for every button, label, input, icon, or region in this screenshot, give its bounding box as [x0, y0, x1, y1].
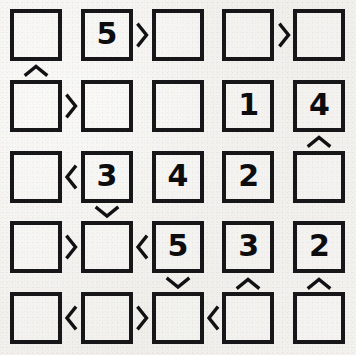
grid-cell-r5c4[interactable] [222, 292, 274, 344]
futoshiki-puzzle-grid: 514342532 [0, 0, 356, 355]
grid-cell-r1c5[interactable] [293, 9, 345, 61]
cell-value: 2 [309, 231, 329, 261]
h-constraint-greater-than-icon-r1c2 [133, 20, 152, 50]
cell-value: 3 [238, 231, 258, 261]
cell-value: 3 [97, 161, 117, 191]
v-constraint-up-chevron-icon-r2c5 [304, 132, 334, 150]
h-constraint-less-than-icon-r5c3 [204, 303, 223, 333]
h-constraint-less-than-icon-r3c1 [62, 162, 81, 192]
cell-value: 5 [97, 19, 117, 49]
grid-cell-r2c3[interactable] [152, 80, 204, 132]
grid-cell-r2c5[interactable]: 4 [293, 80, 345, 132]
grid-cell-r5c3[interactable] [152, 292, 204, 344]
grid-cell-r3c5[interactable] [293, 151, 345, 203]
grid-cell-r5c2[interactable] [81, 292, 133, 344]
cell-value: 4 [167, 161, 187, 191]
v-constraint-up-chevron-icon-r4c4 [233, 274, 263, 292]
v-constraint-down-chevron-icon-r4c3 [163, 274, 193, 292]
grid-cell-r4c5[interactable]: 2 [293, 221, 345, 273]
h-constraint-less-than-icon-r4c2 [133, 232, 152, 262]
h-constraint-greater-than-icon-r1c4 [274, 20, 293, 50]
grid-cell-r1c3[interactable] [152, 9, 204, 61]
h-constraint-less-than-icon-r5c1 [62, 303, 81, 333]
v-constraint-up-chevron-icon-r1c1 [21, 61, 51, 79]
cell-value: 2 [238, 161, 258, 191]
grid-cell-r1c2[interactable]: 5 [81, 9, 133, 61]
grid-cell-r4c4[interactable]: 3 [222, 221, 274, 273]
grid-cell-r3c3[interactable]: 4 [152, 151, 204, 203]
h-constraint-greater-than-icon-r4c1 [62, 232, 81, 262]
grid-cell-r2c4[interactable]: 1 [222, 80, 274, 132]
cell-value: 4 [309, 90, 329, 120]
grid-cell-r1c1[interactable] [10, 9, 62, 61]
grid-cell-r4c2[interactable] [81, 221, 133, 273]
cell-value: 5 [167, 231, 187, 261]
grid-cell-r1c4[interactable] [222, 9, 274, 61]
grid-cell-r3c4[interactable]: 2 [222, 151, 274, 203]
grid-cell-r3c2[interactable]: 3 [81, 151, 133, 203]
grid-cell-r5c1[interactable] [10, 292, 62, 344]
grid-cell-r3c1[interactable] [10, 151, 62, 203]
grid-cell-r2c1[interactable] [10, 80, 62, 132]
h-constraint-greater-than-icon-r2c1 [62, 91, 81, 121]
v-constraint-down-chevron-icon-r3c2 [92, 203, 122, 221]
grid-cell-r5c5[interactable] [293, 292, 345, 344]
h-constraint-greater-than-icon-r5c2 [133, 303, 152, 333]
grid-cell-r4c3[interactable]: 5 [152, 221, 204, 273]
grid-cell-r2c2[interactable] [81, 80, 133, 132]
v-constraint-up-chevron-icon-r4c5 [304, 274, 334, 292]
grid-cell-r4c1[interactable] [10, 221, 62, 273]
cell-value: 1 [238, 90, 258, 120]
